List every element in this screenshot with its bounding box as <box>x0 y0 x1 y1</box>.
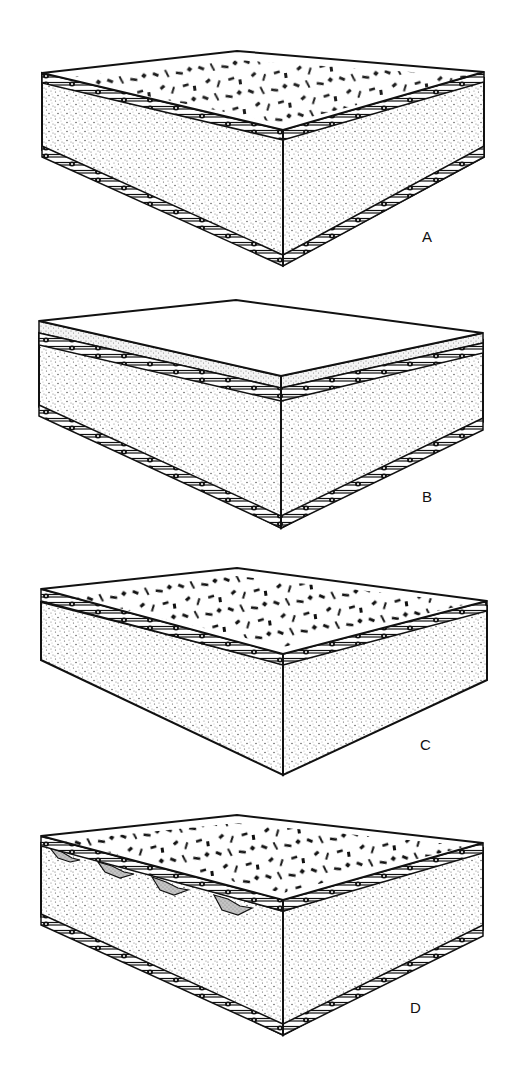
panel-d: D <box>41 815 483 1035</box>
panel-label-a: A <box>422 228 432 245</box>
panel-a: A <box>42 51 484 266</box>
panel-c: C <box>41 568 487 775</box>
panel-label-b: B <box>422 488 432 505</box>
panel-b: B <box>39 300 483 528</box>
diagram-canvas: A B C <box>0 0 522 1066</box>
panel-label-c: C <box>420 736 431 753</box>
panel-label-d: D <box>410 999 421 1016</box>
